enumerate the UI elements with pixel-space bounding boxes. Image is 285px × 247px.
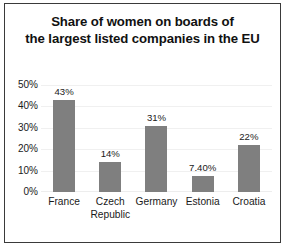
- y-axis-labels: 50% 40% 30% 20% 10% 0%: [8, 85, 38, 192]
- x-axis-label-czech-republic-line-2: Republic: [84, 209, 136, 222]
- bars-group: 43% 14% 31% 7.40% 22%: [41, 85, 272, 192]
- x-axis-label-czech-republic-line-1: Czech: [84, 196, 136, 209]
- y-axis-tick-40: 40%: [8, 101, 38, 111]
- y-axis-tick-50: 50%: [8, 80, 38, 90]
- bar-label-france: 43%: [54, 87, 73, 97]
- x-axis-label-estonia: Estonia: [177, 196, 229, 209]
- bar-estonia[interactable]: [192, 176, 214, 192]
- x-axis-label-croatia: Croatia: [223, 196, 275, 209]
- bar-slot-france: 43%: [41, 85, 87, 192]
- x-axis-label-germany-line-1: Germany: [131, 196, 183, 209]
- x-axis-label-estonia-line-1: Estonia: [177, 196, 229, 209]
- bar-czech-republic[interactable]: [99, 162, 121, 192]
- x-axis-labels: France Czech Republic Germany Estonia Cr…: [41, 196, 272, 236]
- x-axis-label-france-line-1: France: [38, 196, 90, 209]
- x-axis-label-czech-republic: Czech Republic: [84, 196, 136, 221]
- x-axis-label-germany: Germany: [131, 196, 183, 209]
- y-axis-tick-20: 20%: [8, 144, 38, 154]
- bar-label-czech-republic: 14%: [101, 149, 120, 159]
- bar-slot-germany: 31%: [133, 85, 179, 192]
- y-axis-tick-30: 30%: [8, 123, 38, 133]
- bar-germany[interactable]: [145, 126, 167, 192]
- bar-label-germany: 31%: [147, 113, 166, 123]
- bar-slot-estonia: 7.40%: [180, 85, 226, 192]
- plot-wrapper: 50% 40% 30% 20% 10% 0% 43% 14% 31% 7.40%: [0, 0, 285, 247]
- y-axis-tick-0: 0%: [8, 187, 38, 197]
- bar-croatia[interactable]: [238, 145, 260, 192]
- bar-slot-czech-republic: 14%: [87, 85, 133, 192]
- x-axis-label-croatia-line-1: Croatia: [223, 196, 275, 209]
- x-axis-label-france: France: [38, 196, 90, 209]
- bar-label-croatia: 22%: [239, 132, 258, 142]
- y-axis-tick-10: 10%: [8, 166, 38, 176]
- bar-france[interactable]: [53, 100, 75, 192]
- chart-container: Share of women on boards of the largest …: [0, 0, 285, 247]
- bar-slot-croatia: 22%: [226, 85, 272, 192]
- bar-label-estonia: 7.40%: [189, 163, 216, 173]
